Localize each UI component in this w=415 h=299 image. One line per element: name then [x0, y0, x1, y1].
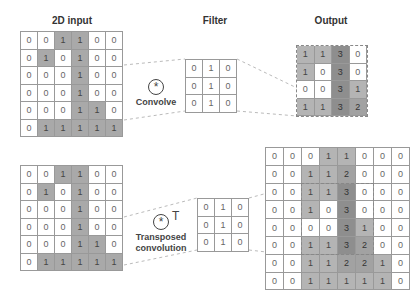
bottom-output-grid: 0001100000112000001130000010300000003100…: [265, 147, 410, 290]
grid-cell: 2: [338, 166, 356, 184]
grid-cell: 0: [38, 201, 55, 219]
grid-cell: 0: [21, 201, 38, 219]
grid-cell: 1: [72, 102, 89, 120]
grid-cell: 1: [72, 85, 89, 103]
grid-cell: 0: [21, 32, 38, 50]
grid-cell: 0: [315, 64, 333, 82]
grid-cell: 0: [55, 201, 72, 219]
grid-cell: 1: [89, 254, 106, 272]
grid-cell: 0: [374, 184, 392, 202]
grid-cell: 1: [350, 81, 368, 99]
grid-cell: 0: [374, 201, 392, 219]
grid-cell: 0: [106, 166, 123, 184]
grid-cell: 1: [374, 273, 392, 291]
grid-cell: 0: [55, 50, 72, 68]
grid-cell: 1: [55, 254, 72, 272]
grid-cell: 3: [338, 184, 356, 202]
grid-cell: 0: [374, 237, 392, 255]
grid-cell: 1: [106, 120, 123, 138]
grid-cell: 0: [320, 219, 338, 237]
transposed-label-line1: Transposed: [136, 232, 187, 242]
grid-cell: 1: [302, 273, 320, 291]
grid-cell: 1: [338, 148, 356, 166]
grid-cell: 0: [21, 166, 38, 184]
grid-cell: 0: [284, 148, 302, 166]
grid-cell: 3: [338, 219, 356, 237]
grid-cell: 1: [302, 255, 320, 273]
grid-cell: 0: [356, 148, 374, 166]
grid-cell: 0: [266, 148, 284, 166]
grid-cell: 1: [89, 120, 106, 138]
grid-cell: 1: [320, 184, 338, 202]
grid-cell: 0: [89, 67, 106, 85]
grid-cell: 1: [72, 219, 89, 237]
grid-cell: 0: [38, 219, 55, 237]
grid-cell: 1: [315, 99, 333, 117]
convolve-icon: *: [153, 214, 169, 230]
grid-cell: 0: [392, 148, 410, 166]
grid-cell: 0: [55, 236, 72, 254]
grid-cell: 1: [203, 78, 220, 96]
grid-cell: 0: [38, 166, 55, 184]
grid-cell: 0: [284, 255, 302, 273]
grid-cell: 0: [356, 166, 374, 184]
grid-cell: 0: [38, 32, 55, 50]
grid-cell: 1: [72, 32, 89, 50]
grid-cell: 0: [284, 219, 302, 237]
grid-cell: 0: [392, 219, 410, 237]
grid-cell: 3: [338, 201, 356, 219]
grid-cell: 0: [106, 201, 123, 219]
grid-cell: 0: [266, 219, 284, 237]
grid-cell: 0: [89, 50, 106, 68]
grid-cell: 0: [89, 184, 106, 202]
grid-cell: 0: [21, 236, 38, 254]
grid-cell: 1: [215, 199, 232, 217]
grid-cell: 0: [297, 81, 315, 99]
grid-cell: 0: [38, 102, 55, 120]
grid-cell: 3: [332, 99, 350, 117]
bottom-filter-grid: 010010010: [197, 198, 249, 252]
grid-cell: 0: [186, 95, 203, 113]
grid-cell: 0: [266, 255, 284, 273]
grid-cell: 0: [21, 120, 38, 138]
grid-cell: 0: [220, 95, 237, 113]
grid-cell: 1: [72, 166, 89, 184]
grid-cell: 0: [55, 102, 72, 120]
grid-cell: 0: [38, 85, 55, 103]
grid-cell: 1: [215, 217, 232, 235]
grid-cell: 1: [320, 255, 338, 273]
grid-cell: 0: [315, 81, 333, 99]
grid-cell: 1: [320, 237, 338, 255]
grid-cell: 1: [55, 166, 72, 184]
grid-cell: 0: [106, 85, 123, 103]
top-input-grid: 001100010100000100000100000110011111: [20, 31, 123, 137]
grid-cell: 2: [356, 255, 374, 273]
bottom-input-grid: 001100010100000100000100000110011111: [20, 165, 123, 271]
grid-cell: 1: [374, 255, 392, 273]
grid-cell: 0: [38, 67, 55, 85]
grid-cell: 1: [72, 254, 89, 272]
grid-cell: 0: [55, 219, 72, 237]
grid-cell: 1: [315, 46, 333, 64]
grid-cell: 1: [203, 95, 220, 113]
grid-cell: 1: [297, 64, 315, 82]
grid-cell: 0: [55, 184, 72, 202]
grid-cell: 0: [266, 237, 284, 255]
grid-cell: 0: [89, 201, 106, 219]
grid-cell: 0: [220, 60, 237, 78]
grid-cell: 0: [186, 60, 203, 78]
grid-cell: 0: [21, 67, 38, 85]
grid-cell: 0: [21, 254, 38, 272]
grid-cell: 0: [89, 32, 106, 50]
grid-cell: 0: [232, 217, 249, 235]
convolve-operator: * Convolve: [131, 79, 181, 108]
grid-cell: 0: [374, 219, 392, 237]
grid-cell: 0: [186, 78, 203, 96]
grid-cell: 0: [350, 64, 368, 82]
convolve-icon: *: [148, 79, 164, 95]
grid-cell: 0: [21, 85, 38, 103]
grid-cell: 0: [232, 199, 249, 217]
grid-cell: 1: [72, 67, 89, 85]
grid-cell: 1: [72, 184, 89, 202]
grid-cell: 0: [21, 102, 38, 120]
